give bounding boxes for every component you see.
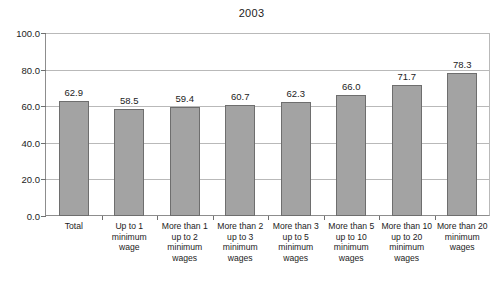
bar[interactable] [392, 85, 422, 216]
bar-value-label: 59.4 [176, 93, 195, 104]
x-axis-category-label: More than 3up to 5minimumwages [268, 221, 324, 263]
x-axis-tick-mark [102, 216, 103, 220]
x-axis-category-label: More than 1up to 2minimumwages [157, 221, 213, 263]
bar-value-label: 66.0 [342, 81, 361, 92]
x-axis-category-label-line: minimum [213, 242, 269, 253]
bar-chart: 2003 100.080.060.040.020.00.0 62.958.559… [0, 0, 503, 283]
x-axis-category-label: More than 5up to 10minimumwages [324, 221, 380, 263]
x-axis-category-label-line: minimum [435, 232, 491, 243]
y-axis-tick-marks [0, 33, 46, 216]
x-axis-category-label-line: wage [102, 242, 158, 253]
x-axis-category-label-line: up to 10 [324, 232, 380, 243]
x-axis-tick-mark [435, 216, 436, 220]
bar[interactable] [114, 109, 144, 216]
bar-group[interactable]: 59.4 [157, 33, 213, 216]
x-axis-category-label: Total [46, 221, 102, 232]
x-axis-category-label-line: up to 3 [213, 232, 269, 243]
chart-title: 2003 [0, 7, 503, 19]
x-axis-category-label: More than 2up to 3minimumwages [213, 221, 269, 263]
x-axis-category-label-line: up to 5 [268, 232, 324, 243]
x-axis-category-label-line: minimum [157, 242, 213, 253]
bar-group[interactable]: 66.0 [324, 33, 380, 216]
x-axis-category-label: More than 10up to 20minimumwages [379, 221, 435, 263]
x-axis-category-label-line: More than 3 [268, 221, 324, 232]
bar-value-label: 62.9 [65, 87, 84, 98]
bar-value-label: 78.3 [453, 59, 472, 70]
bar-value-label: 58.5 [120, 95, 139, 106]
x-axis-category-label-line: More than 10 [379, 221, 435, 232]
x-axis-category-label-line: Up to 1 [102, 221, 158, 232]
x-axis-category-label-line: More than 1 [157, 221, 213, 232]
bar-group[interactable]: 62.9 [46, 33, 102, 216]
x-axis-category-label-line: minimum [379, 242, 435, 253]
x-axis-category-label-line: wages [268, 253, 324, 264]
bars-layer: 62.958.559.460.762.366.071.778.3 [46, 33, 490, 216]
bar-value-label: 71.7 [398, 71, 417, 82]
bar[interactable] [281, 102, 311, 216]
bar-group[interactable]: 58.5 [102, 33, 158, 216]
bar-group[interactable]: 60.7 [213, 33, 269, 216]
bar[interactable] [170, 107, 200, 216]
x-axis-category-label-line: wages [435, 242, 491, 253]
bar-value-label: 60.7 [231, 91, 250, 102]
x-axis-category-label-line: minimum [268, 242, 324, 253]
x-axis-category-label-line: More than 5 [324, 221, 380, 232]
bar[interactable] [336, 95, 366, 216]
x-axis-tick-mark [157, 216, 158, 220]
x-axis-labels: TotalUp to 1minimumwageMore than 1up to … [46, 221, 490, 281]
bar-group[interactable]: 71.7 [379, 33, 435, 216]
x-axis-category-label-line: minimum [102, 232, 158, 243]
x-axis-tick-mark [213, 216, 214, 220]
bar-value-label: 62.3 [287, 88, 306, 99]
x-axis-category-label-line: More than 20 [435, 221, 491, 232]
bar-group[interactable]: 62.3 [268, 33, 324, 216]
bar[interactable] [447, 73, 477, 216]
bar[interactable] [225, 105, 255, 216]
x-axis-category-label-line: Total [46, 221, 102, 232]
x-axis-category-label: Up to 1minimumwage [102, 221, 158, 253]
bar-group[interactable]: 78.3 [435, 33, 491, 216]
x-axis-category-label-line: More than 2 [213, 221, 269, 232]
x-axis-category-label-line: wages [157, 253, 213, 264]
x-axis-tick-mark [379, 216, 380, 220]
x-axis-category-label-line: minimum [324, 242, 380, 253]
x-axis-category-label-line: wages [213, 253, 269, 264]
x-axis-tick-mark [268, 216, 269, 220]
x-axis-category-label-line: up to 2 [157, 232, 213, 243]
x-axis-category-label-line: wages [324, 253, 380, 264]
x-axis-tick-mark [324, 216, 325, 220]
bar[interactable] [59, 101, 89, 216]
x-axis-category-label: More than 20minimumwages [435, 221, 491, 253]
x-axis-category-label-line: wages [379, 253, 435, 264]
x-axis-category-label-line: up to 20 [379, 232, 435, 243]
